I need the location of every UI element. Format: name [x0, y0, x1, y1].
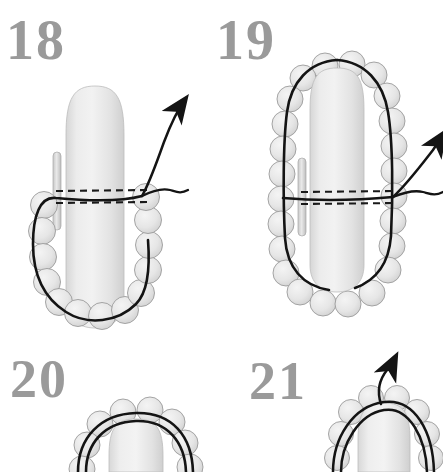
panel-step-18: 18 — [0, 0, 222, 340]
finger-form — [109, 419, 163, 472]
illustration-step-19 — [221, 0, 443, 340]
panel-step-21: 21 — [221, 340, 443, 472]
page-canvas: 18 — [0, 0, 443, 472]
illustration-step-20 — [0, 340, 222, 472]
thread-arrow-up-right — [142, 98, 186, 196]
panel-step-19: 19 — [221, 0, 443, 340]
illustration-step-21 — [221, 340, 443, 472]
finger-form — [310, 68, 364, 292]
illustration-step-18 — [0, 0, 222, 340]
panel-step-20: 20 — [0, 340, 222, 472]
finger-form — [66, 86, 124, 328]
needle-icon — [298, 158, 306, 236]
